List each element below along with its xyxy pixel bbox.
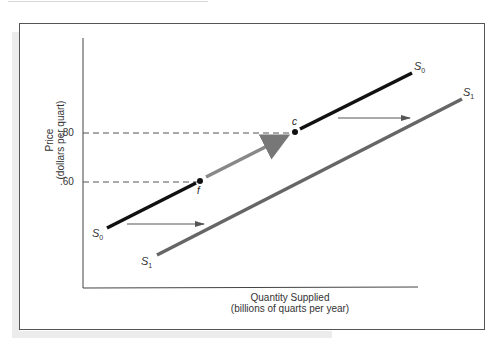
x-axis-label-line1: Quantity Supplied — [160, 292, 420, 303]
s1-label-bottom: S1 — [141, 255, 152, 269]
point-c-label: c — [292, 116, 297, 127]
s0-curve-lower — [107, 183, 196, 228]
x-axis-label-line2: (billions of quarts per year) — [160, 303, 420, 314]
s0-label-top: S0 — [414, 60, 425, 74]
x-axis-label: Quantity Supplied (billions of quarts pe… — [160, 292, 420, 314]
s1-label-top: S1 — [463, 86, 474, 100]
s0-label-bottom: S0 — [92, 227, 103, 241]
point-f-label: f — [197, 185, 200, 196]
y-tick-060: .60 — [60, 176, 74, 187]
s0-curve-upper — [300, 73, 412, 129]
movement-arrow — [206, 136, 287, 177]
y-axis-label-line1: Price — [44, 90, 55, 190]
y-tick-080: .80 — [60, 127, 74, 138]
point-f — [197, 178, 203, 184]
y-axis-label: Price (dollars per quart) — [44, 90, 84, 190]
y-axis-label-line2: (dollars per quart) — [55, 90, 66, 190]
x-axis — [83, 287, 418, 288]
point-c — [292, 129, 298, 135]
